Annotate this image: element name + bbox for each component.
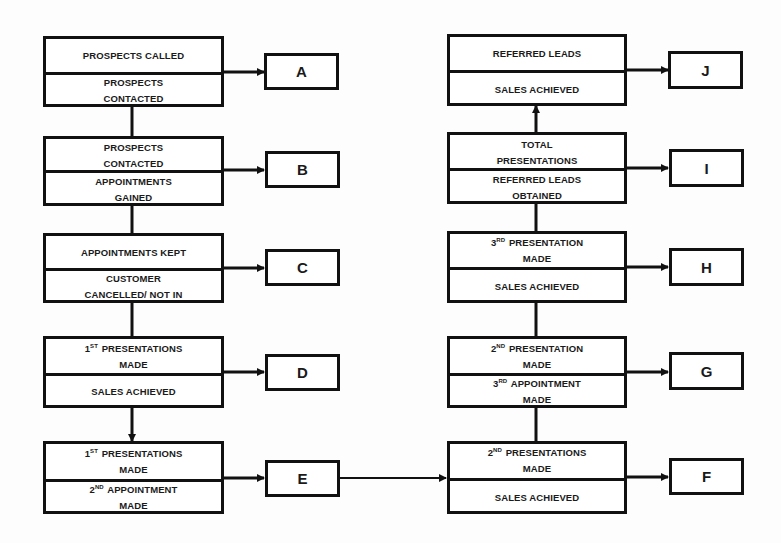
stage-top-text: 1ST PRESENTATIONS MADE	[46, 444, 221, 479]
stage-bottom-text: 3RD APPOINTMENT MADE	[450, 376, 624, 408]
stage-bottom-text: SALES ACHIEVED	[450, 73, 624, 106]
stage-top-text: 2ND PRESENTATIONS MADE	[450, 444, 624, 478]
sales-funnel-diagram: PROSPECTS CALLED PROSPECTS CONTACTED A P…	[0, 0, 781, 543]
stage-box-appointments-kept: APPOINTMENTS KEPT CUSTOMER CANCELLED/ NO…	[43, 233, 224, 303]
stage-bottom-text: CUSTOMER CANCELLED/ NOT IN	[46, 271, 221, 303]
result-box-c: C	[265, 249, 340, 286]
result-box-b: B	[265, 151, 340, 188]
stage-top-text: APPOINTMENTS KEPT	[46, 236, 221, 269]
stage-top-text: 3RD PRESENTATION MADE	[450, 234, 624, 268]
stage-top-text: PROSPECTS CALLED	[46, 39, 221, 73]
stage-bottom-text: REFERRED LEADS OBTAINED	[450, 171, 624, 204]
stage-bottom-text: PROSPECTS CONTACTED	[46, 75, 221, 107]
stage-box-1st-presentations: 1ST PRESENTATIONS MADE SALES ACHIEVED	[43, 336, 224, 408]
stage-box-prospects-contacted: PROSPECTS CONTACTED APPOINTMENTS GAINED	[43, 136, 224, 206]
stage-top-text: REFERRED LEADS	[450, 37, 624, 71]
stage-bottom-text: SALES ACHIEVED	[450, 270, 624, 303]
stage-box-2nd-appointment: 1ST PRESENTATIONS MADE 2ND APPOINTMENT M…	[43, 441, 224, 514]
result-box-i: I	[669, 149, 744, 187]
stage-bottom-text: APPOINTMENTS GAINED	[46, 173, 221, 206]
stage-bottom-text: SALES ACHIEVED	[450, 481, 624, 514]
result-box-e: E	[265, 460, 340, 497]
stage-box-3rd-presentation: 3RD PRESENTATION MADE SALES ACHIEVED	[447, 231, 627, 303]
stage-bottom-text: 2ND APPOINTMENT MADE	[46, 482, 221, 514]
stage-top-text: 2ND PRESENTATION MADE	[450, 339, 624, 374]
result-box-h: H	[669, 248, 744, 286]
result-box-a: A	[264, 53, 339, 90]
result-box-g: G	[669, 352, 744, 390]
stage-box-2nd-presentation: 2ND PRESENTATION MADE 3RD APPOINTMENT MA…	[447, 336, 627, 408]
stage-box-referred-leads: REFERRED LEADS SALES ACHIEVED	[447, 34, 627, 106]
result-box-j: J	[668, 51, 743, 89]
stage-top-text: 1ST PRESENTATIONS MADE	[46, 339, 221, 374]
stage-bottom-text: SALES ACHIEVED	[46, 376, 221, 408]
result-box-f: F	[669, 458, 744, 495]
stage-top-text: TOTAL PRESENTATIONS	[450, 135, 624, 170]
stage-box-total-presentations: TOTAL PRESENTATIONS REFERRED LEADS OBTAI…	[447, 132, 627, 204]
stage-top-text: PROSPECTS CONTACTED	[46, 139, 221, 172]
stage-box-prospects-called: PROSPECTS CALLED PROSPECTS CONTACTED	[43, 36, 224, 107]
result-box-d: D	[265, 354, 340, 391]
stage-box-2nd-presentations-sales: 2ND PRESENTATIONS MADE SALES ACHIEVED	[447, 441, 627, 514]
